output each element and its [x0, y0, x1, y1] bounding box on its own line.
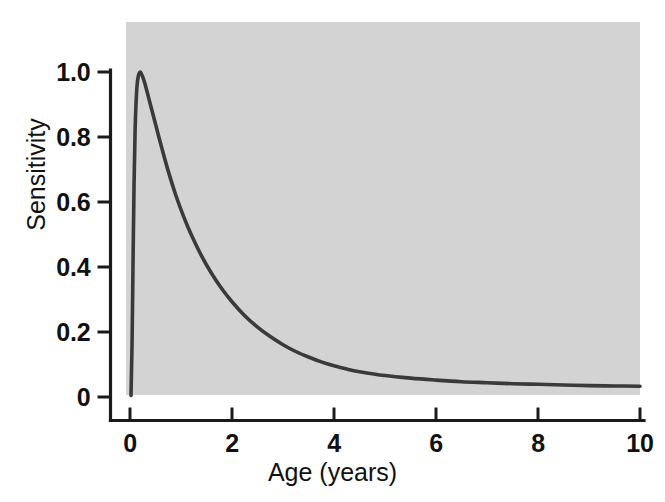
x-tick-label: 8: [531, 429, 545, 458]
x-tick-label: 2: [225, 429, 239, 458]
y-tick-marks: [98, 72, 111, 397]
x-tick-label: 0: [123, 429, 137, 458]
x-tick-marks: [130, 408, 640, 421]
sensitivity-curve: [131, 72, 640, 395]
y-tick-label: 0.6: [56, 188, 90, 217]
figure-container: 1.00.80.60.40.20 0246810 Sensitivity Age…: [0, 0, 665, 502]
y-tick-label: 0.4: [56, 253, 90, 282]
y-tick-label: 0: [77, 383, 91, 412]
x-tick-label: 10: [626, 429, 653, 458]
x-tick-label: 6: [429, 429, 443, 458]
x-axis-title: Age (years): [0, 458, 665, 487]
y-tick-label: 0.2: [56, 318, 90, 347]
x-tick-label: 4: [327, 429, 341, 458]
y-tick-label: 1.0: [56, 58, 90, 87]
plot-svg: [0, 0, 665, 502]
y-tick-label: 0.8: [56, 123, 90, 152]
y-axis-title: Sensitivity: [22, 75, 51, 275]
